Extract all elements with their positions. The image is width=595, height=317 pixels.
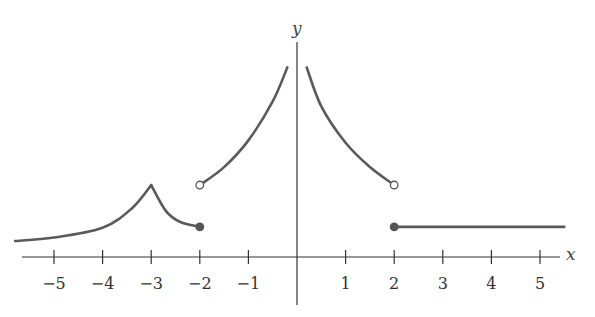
x-tick-label: 5 (535, 274, 545, 293)
curve-segment (200, 67, 287, 185)
x-axis-label: x (566, 244, 576, 264)
x-tick-label: 3 (438, 274, 448, 293)
x-tick-label: 4 (486, 274, 496, 293)
function-graph (0, 0, 595, 317)
curves (15, 67, 564, 241)
open-endpoint (390, 181, 398, 189)
closed-endpoint (390, 223, 398, 231)
x-tick-label: −3 (139, 274, 163, 293)
x-tick-label: −1 (237, 274, 261, 293)
x-tick-label: −4 (91, 274, 115, 293)
curve-segment (307, 67, 394, 185)
curve-segment (15, 185, 151, 241)
x-tick-label: −5 (42, 274, 66, 293)
curve-segment (151, 185, 200, 227)
closed-endpoint (196, 223, 204, 231)
x-tick-label: 2 (389, 274, 399, 293)
x-tick-label: −2 (188, 274, 212, 293)
y-axis-label: y (292, 18, 302, 38)
x-tick-label: 1 (341, 274, 351, 293)
open-endpoint (196, 181, 204, 189)
